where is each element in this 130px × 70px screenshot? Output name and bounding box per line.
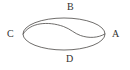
label-c: C bbox=[7, 29, 14, 39]
diagram-canvas: B A D C bbox=[0, 0, 130, 70]
label-d: D bbox=[66, 54, 73, 64]
outer-ellipse-shape bbox=[23, 18, 105, 50]
label-a: A bbox=[112, 29, 119, 39]
ellipse-diagram-svg bbox=[0, 0, 130, 70]
sigmoid-divider-curve bbox=[23, 23, 105, 37]
label-b: B bbox=[67, 2, 74, 12]
